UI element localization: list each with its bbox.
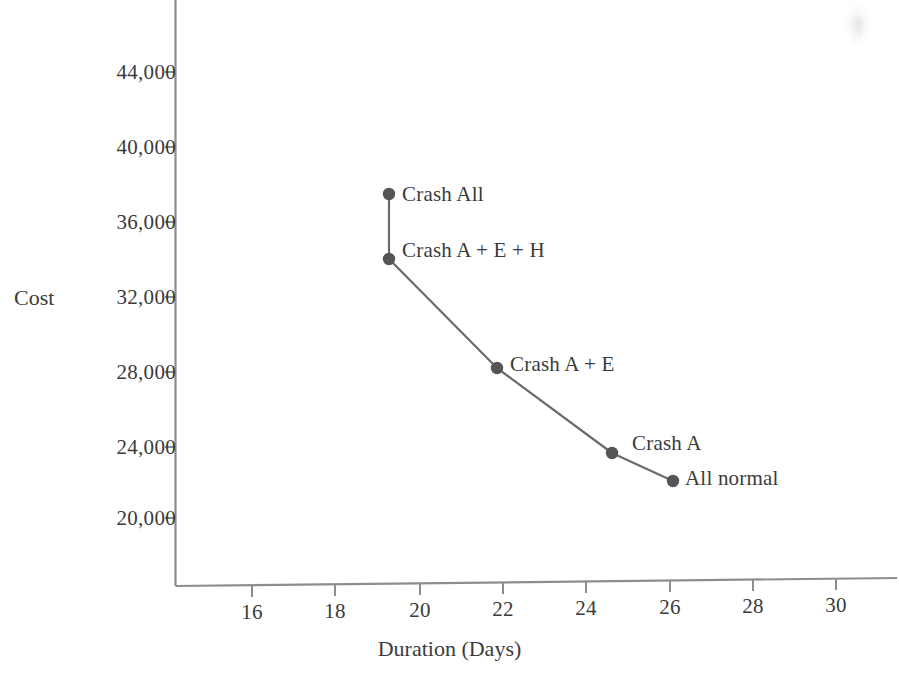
- chart-page: 44,000 40,000 36,000 32,000 28,000 24,00…: [0, 0, 899, 674]
- x-tick-label-28: 28: [723, 594, 783, 619]
- y-tick-label-36000: 36,000: [66, 210, 176, 235]
- x-tick-label-22: 22: [473, 597, 533, 622]
- x-tick-label-16: 16: [222, 600, 282, 625]
- y-tick-label-32000: 32,000: [66, 285, 176, 310]
- data-point-label-crash-a-e: Crash A + E: [510, 352, 614, 377]
- x-tick-label-20: 20: [390, 598, 450, 623]
- data-point-marker[interactable]: [606, 447, 618, 459]
- data-point-marker[interactable]: [491, 362, 503, 374]
- data-point-marker[interactable]: [383, 188, 395, 200]
- x-tick-label-24: 24: [556, 596, 616, 621]
- y-tick-label-20000: 20,000: [66, 506, 176, 531]
- y-tick-label-24000: 24,000: [66, 435, 176, 460]
- x-axis-title: Duration (Days): [0, 636, 899, 662]
- data-point-label-crash-all: Crash All: [402, 182, 484, 207]
- x-axis-line: [176, 578, 898, 586]
- y-tick-label-40000: 40,000: [66, 135, 176, 160]
- y-tick-label-44000: 44,000: [66, 60, 176, 85]
- data-point-label-all-normal: All normal: [685, 466, 779, 491]
- y-tick-label-28000: 28,000: [66, 360, 176, 385]
- x-tick-label-18: 18: [305, 599, 365, 624]
- data-point-label-crash-a: Crash A: [632, 431, 702, 456]
- data-point-marker[interactable]: [667, 475, 679, 487]
- y-axis-title: Cost: [14, 285, 54, 311]
- data-point-marker[interactable]: [383, 253, 395, 265]
- data-point-label-crash-a-e-h: Crash A + E + H: [402, 238, 545, 263]
- x-tick-label-30: 30: [806, 593, 866, 618]
- plot-area: [0, 0, 899, 674]
- x-tick-label-26: 26: [640, 595, 700, 620]
